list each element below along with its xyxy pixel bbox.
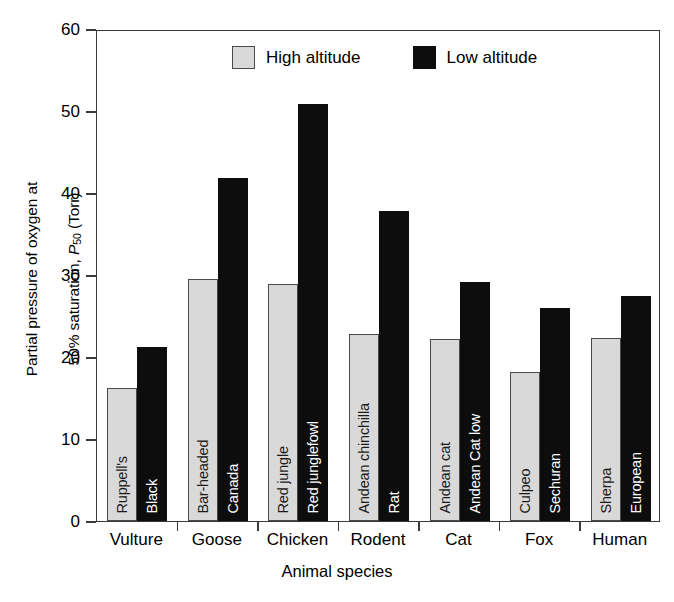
bar-label: Bar-headed	[196, 439, 211, 513]
y-axis-tick	[86, 193, 96, 195]
bar-high-altitude: Culpeo	[510, 372, 540, 521]
legend-swatch-high-altitude	[232, 46, 255, 69]
legend-item: Low altitude	[413, 46, 538, 69]
bar-high-altitude: Andean chinchilla	[349, 334, 379, 521]
x-axis-tick	[418, 522, 420, 531]
x-axis-category-label: Fox	[525, 530, 553, 550]
bar-label: Andean Cat low	[467, 413, 482, 513]
bar-low-altitude: Andean Cat low	[460, 282, 490, 521]
y-axis-symbol-subscript: 50	[71, 233, 83, 244]
x-axis-tick	[579, 522, 581, 531]
bar-label: Red jungle	[276, 446, 291, 513]
bar-high-altitude: Red jungle	[268, 284, 298, 521]
bar-label: Andean chinchilla	[357, 403, 372, 513]
bar-label: Red junglefowl	[306, 421, 321, 513]
y-axis-tick	[86, 111, 96, 113]
chart-legend: High altitudeLow altitude	[232, 46, 537, 69]
x-axis-title: Animal species	[0, 562, 674, 581]
y-axis-tick-label: 40	[40, 184, 80, 204]
bar-label: Canada	[226, 463, 241, 513]
y-axis-tick	[86, 275, 96, 277]
y-axis-tick-label: 60	[40, 20, 80, 40]
bar-label: Rat	[387, 491, 402, 513]
y-axis-tick-label: 30	[40, 266, 80, 286]
y-axis-tick-label: 50	[40, 102, 80, 122]
bar-low-altitude: Red junglefowl	[298, 104, 328, 521]
x-axis-tick	[257, 522, 259, 531]
bar-label: Ruppell's	[115, 456, 130, 513]
x-axis-category-label: Chicken	[267, 530, 328, 550]
y-axis-tick	[86, 521, 96, 523]
bar-label: European	[628, 452, 643, 513]
legend-item: High altitude	[232, 46, 361, 69]
y-axis-tick-label: 10	[40, 430, 80, 450]
y-axis-tick	[86, 29, 96, 31]
x-axis-category-label: Goose	[192, 530, 242, 550]
bar-label: Culpeo	[518, 468, 533, 513]
y-axis-tick-label: 0	[40, 512, 80, 532]
x-axis-category-label: Cat	[445, 530, 471, 550]
bar-high-altitude: Andean cat	[430, 339, 460, 521]
y-axis-tick-label: 20	[40, 348, 80, 368]
bar-high-altitude: Bar-headed	[188, 279, 218, 521]
bar-low-altitude: Canada	[218, 178, 248, 521]
plot-area: Ruppell'sBlackBar-headedCanadaRed jungle…	[96, 30, 660, 522]
bar-label: Black	[145, 479, 160, 513]
x-axis-tick	[499, 522, 501, 531]
bar-high-altitude: Ruppell's	[107, 388, 137, 521]
bar-label: Sechuran	[548, 453, 563, 513]
bar-low-altitude: Black	[137, 347, 167, 521]
bar-low-altitude: Rat	[379, 211, 409, 521]
x-axis-category-label: Vulture	[110, 530, 163, 550]
x-axis-category-label: Human	[592, 530, 647, 550]
legend-label: Low altitude	[447, 48, 538, 68]
chart-figure: Partial pressure of oxygen at 50% satura…	[0, 0, 674, 602]
x-axis-tick	[177, 522, 179, 531]
legend-swatch-low-altitude	[413, 46, 436, 69]
y-axis-title-line1: Partial pressure of oxygen at	[23, 182, 40, 376]
bar-label: Andean cat	[437, 442, 452, 513]
bar-low-altitude: Sechuran	[540, 308, 570, 521]
x-axis-tick	[338, 522, 340, 531]
y-axis-tick	[86, 439, 96, 441]
x-axis-category-label: Rodent	[351, 530, 406, 550]
bar-high-altitude: Sherpa	[591, 338, 621, 521]
legend-label: High altitude	[266, 48, 361, 68]
y-axis-tick	[86, 357, 96, 359]
y-axis-symbol: P	[65, 245, 82, 255]
bar-label: Sherpa	[598, 467, 613, 513]
bar-low-altitude: European	[621, 296, 651, 522]
